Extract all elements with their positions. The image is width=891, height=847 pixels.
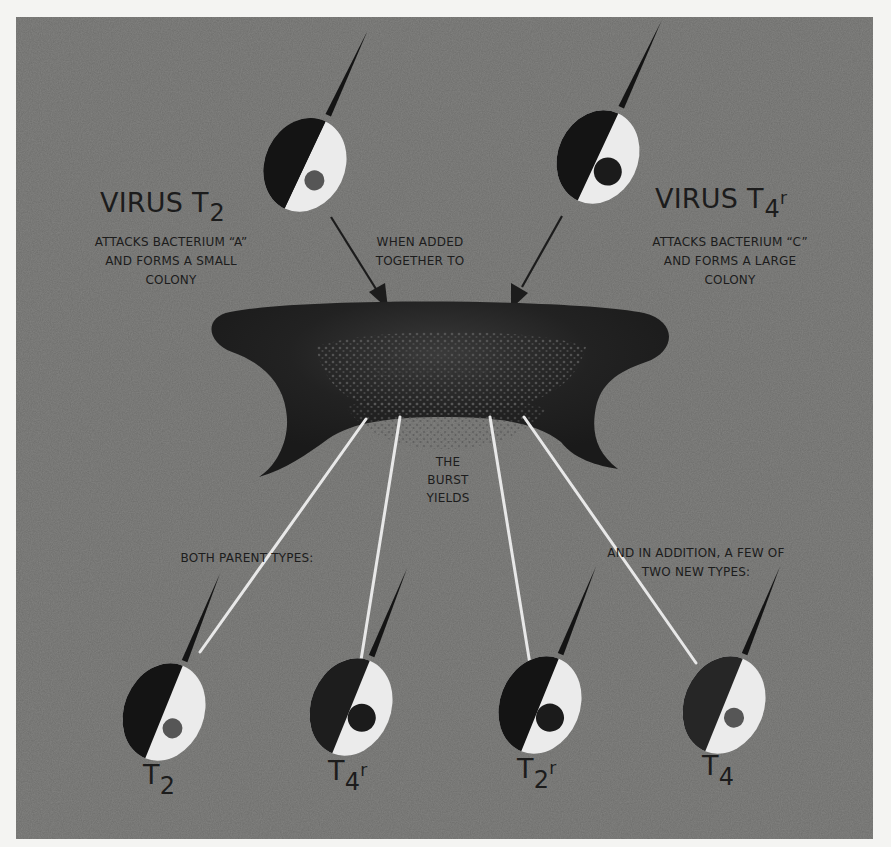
label-offspring-t2r: T2r <box>517 753 556 784</box>
label-subscript: 4 <box>719 763 734 791</box>
caption-line: AND FORMS A SMALL <box>46 252 296 271</box>
caption-line: ATTACKS BACTERIUM “A” <box>46 233 296 252</box>
label-offspring-t4r: T4r <box>328 755 367 786</box>
caption-both-parent-types: BOTH PARENT TYPES: <box>152 549 342 568</box>
caption-two-new-types: AND IN ADDITION, A FEW OF TWO NEW TYPES: <box>561 544 831 582</box>
label-subscript: 2 <box>534 766 549 794</box>
bacterium-label: A BACTERIUM SENSITIVE TO BOTH <box>346 347 516 381</box>
caption-line: AND IN ADDITION, A FEW OF <box>561 544 831 563</box>
bacterium-label-line: SENSITIVE TO BOTH <box>346 364 516 381</box>
title-virus-t2: VIRUS T2 <box>100 187 225 227</box>
caption-line: BOTH PARENT TYPES: <box>152 549 342 568</box>
title-virus-t4r: VIRUS T4r <box>655 183 787 223</box>
title-superscript: r <box>780 188 787 208</box>
caption-virus-t2: ATTACKS BACTERIUM “A” AND FORMS A SMALL … <box>46 233 296 290</box>
caption-line: ATTACKS BACTERIUM “C” <box>610 233 850 252</box>
title-main: VIRUS T <box>100 187 209 218</box>
caption-when-added: WHEN ADDED TOGETHER TO <box>345 233 495 271</box>
caption-virus-t4r: ATTACKS BACTERIUM “C” AND FORMS A LARGE … <box>610 233 850 290</box>
title-subscript: 4 <box>765 195 780 223</box>
label-main: T <box>143 759 160 790</box>
caption-line: TWO NEW TYPES: <box>561 563 831 582</box>
label-offspring-t4: T4 <box>702 750 734 781</box>
bacterium-label-line: A BACTERIUM <box>346 347 516 364</box>
label-subscript: 2 <box>160 772 175 800</box>
caption-line: BURST <box>413 471 483 489</box>
caption-line: COLONY <box>46 271 296 290</box>
label-main: T <box>517 753 534 784</box>
caption-line: TOGETHER TO <box>345 252 495 271</box>
caption-line: COLONY <box>610 271 850 290</box>
label-superscript: r <box>549 758 556 778</box>
label-main: T <box>328 755 345 786</box>
label-superscript: r <box>360 760 367 780</box>
label-main: T <box>702 750 719 781</box>
title-main: VIRUS T <box>655 183 764 214</box>
title-subscript: 2 <box>210 199 225 227</box>
caption-line: WHEN ADDED <box>345 233 495 252</box>
caption-line: THE <box>413 453 483 471</box>
illustration <box>16 17 873 839</box>
figure-panel: VIRUS T2 VIRUS T4r ATTACKS BACTERIUM “A”… <box>16 17 873 839</box>
label-subscript: 4 <box>345 768 360 796</box>
caption-line: YIELDS <box>413 489 483 507</box>
label-offspring-t2: T2 <box>143 759 175 790</box>
caption-burst-yields: THE BURST YIELDS <box>413 453 483 507</box>
caption-line: AND FORMS A LARGE <box>610 252 850 271</box>
